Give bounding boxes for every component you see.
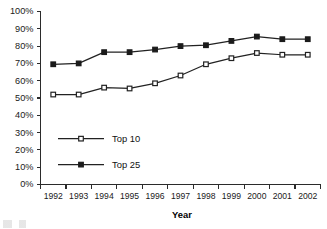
y-tick-label: 100% [10, 6, 34, 16]
line-chart: 0%10%20%30%40%50%60%70%80%90%100% 199219… [0, 0, 327, 229]
x-tick-label: 1996 [145, 191, 164, 201]
data-point-marker [305, 37, 310, 42]
data-point-marker [229, 56, 234, 61]
legend-marker [79, 162, 84, 167]
data-point-marker [178, 44, 183, 49]
x-tick-label: 1999 [222, 191, 241, 201]
data-point-marker [204, 62, 209, 67]
data-point-marker [127, 86, 132, 91]
y-tick-label: 40% [15, 110, 33, 120]
series-line [53, 37, 308, 65]
data-point-marker [204, 43, 209, 48]
data-point-marker [255, 34, 260, 39]
data-point-marker [102, 50, 107, 55]
x-tick-label: 2000 [247, 191, 266, 201]
x-axis-tick-labels: 1992199319941995199619971998199920002001… [44, 191, 318, 201]
y-axis-group: 0%10%20%30%40%50%60%70%80%90%100% [10, 6, 41, 189]
x-tick-label: 1993 [69, 191, 88, 201]
data-point-marker [280, 52, 285, 57]
legend-label: Top 10 [112, 133, 140, 144]
data-point-marker [178, 73, 183, 78]
y-tick-label: 30% [15, 128, 33, 138]
legend-item-top-25: Top 25 [58, 159, 140, 170]
data-point-marker [102, 85, 107, 90]
x-axis-title: Year [172, 209, 192, 220]
chart-legend: Top 10Top 25 [58, 133, 140, 170]
x-tick-label: 1997 [171, 191, 190, 201]
data-point-marker [51, 92, 56, 97]
y-axis-ticks [37, 12, 41, 185]
x-tick-label: 1995 [120, 191, 139, 201]
x-tick-label: 2001 [273, 191, 292, 201]
series-top-25 [51, 34, 310, 66]
y-tick-label: 90% [15, 24, 33, 34]
data-point-marker [153, 47, 158, 52]
y-tick-label: 60% [15, 76, 33, 86]
y-axis-tick-labels: 0%10%20%30%40%50%60%70%80%90%100% [10, 6, 34, 189]
x-tick-label: 1994 [95, 191, 114, 201]
data-point-marker [51, 62, 56, 67]
x-axis-ticks [41, 185, 321, 189]
x-tick-label: 1998 [196, 191, 215, 201]
data-point-marker [229, 39, 234, 44]
y-tick-label: 10% [15, 162, 33, 172]
data-point-marker [280, 37, 285, 42]
chart-canvas: 0%10%20%30%40%50%60%70%80%90%100% 199219… [0, 0, 327, 229]
y-tick-label: 80% [15, 41, 33, 51]
x-tick-label: 2002 [298, 191, 317, 201]
data-point-marker [127, 50, 132, 55]
legend-item-top-10: Top 10 [58, 133, 140, 144]
series-top-10 [51, 51, 310, 97]
data-point-marker [76, 61, 81, 66]
x-tick-label: 1992 [44, 191, 63, 201]
legend-label: Top 25 [112, 159, 140, 170]
data-point-marker [153, 81, 158, 86]
series-layer [51, 34, 310, 97]
legend-marker [79, 136, 84, 141]
data-point-marker [305, 52, 310, 57]
data-point-marker [76, 92, 81, 97]
y-tick-label: 50% [15, 93, 33, 103]
data-point-marker [255, 51, 260, 56]
y-tick-label: 0% [20, 179, 33, 189]
y-tick-label: 70% [15, 58, 33, 68]
x-axis-group: 1992199319941995199619971998199920002001… [41, 185, 321, 201]
y-tick-label: 20% [15, 145, 33, 155]
